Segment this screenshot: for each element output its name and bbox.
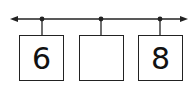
box-1: 6 [19, 35, 64, 81]
box-2-empty[interactable] [79, 35, 124, 81]
right-arrow-icon [180, 16, 188, 22]
box-3: 8 [138, 35, 183, 81]
left-arrow-icon [10, 16, 18, 22]
